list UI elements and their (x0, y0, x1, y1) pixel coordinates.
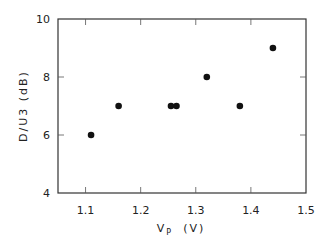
y-tick-label: 4 (43, 187, 50, 200)
y-tick-label: 10 (36, 13, 50, 26)
x-tick-label: 1.3 (187, 204, 205, 217)
data-point (270, 45, 277, 52)
scatter-plot: 1.11.21.31.41.5 46810 D/U3 (dB) VP(V) (0, 0, 326, 250)
x-axis-label-main: V (157, 222, 167, 235)
data-point (173, 103, 180, 110)
x-axis-label: VP(V) (157, 222, 205, 237)
data-point (115, 103, 122, 110)
x-tick-label: 1.1 (77, 204, 95, 217)
x-tick-label: 1.4 (242, 204, 260, 217)
x-tick-label: 1.5 (297, 204, 315, 217)
y-tick-label: 8 (43, 71, 50, 84)
x-axis-ticks: 1.11.21.31.41.5 (77, 19, 315, 217)
plot-frame (58, 19, 306, 193)
data-point (204, 74, 211, 81)
x-axis-label-sub: P (166, 228, 173, 237)
x-axis-label-unit: (V) (183, 222, 205, 235)
y-axis-label: D/U3 (dB) (17, 70, 30, 142)
data-point (237, 103, 244, 110)
y-tick-label: 6 (43, 129, 50, 142)
data-points (88, 45, 276, 139)
data-point (88, 132, 95, 139)
x-tick-label: 1.2 (132, 204, 150, 217)
